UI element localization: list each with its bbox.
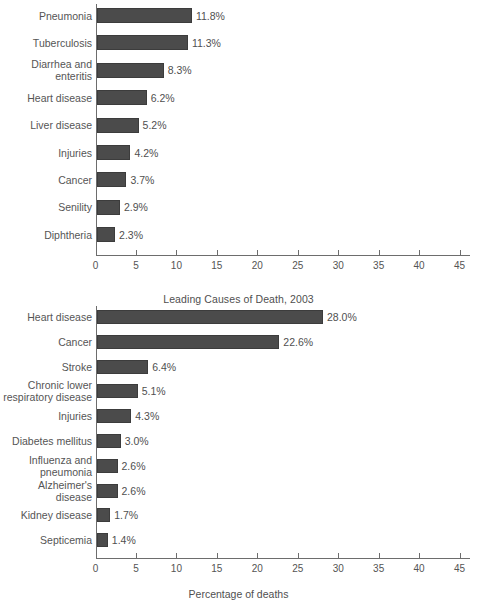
x-axis-tick: [379, 250, 380, 255]
bar: [97, 200, 120, 215]
x-axis-tick: [298, 553, 299, 558]
x-axis-tick: [176, 250, 177, 255]
x-axis-tick-label: 5: [123, 260, 149, 271]
x-axis-tick: [379, 553, 380, 558]
category-label: Diabetes mellitus: [12, 435, 92, 447]
bar: [97, 484, 118, 498]
x-axis-tick-label: 10: [163, 260, 189, 271]
category-label: Heart disease: [27, 92, 92, 104]
value-label: 4.3%: [135, 410, 159, 422]
bar: [97, 384, 138, 398]
category-label: Alzheimer's disease: [38, 479, 92, 503]
bar: [97, 459, 118, 473]
x-axis-tick-label: 0: [83, 563, 109, 574]
x-axis-tick-label: 20: [244, 260, 270, 271]
bar: [97, 90, 147, 105]
value-label: 3.0%: [125, 435, 149, 447]
bar: [97, 409, 132, 423]
x-axis-tick: [136, 553, 137, 558]
value-label: 11.8%: [196, 10, 225, 22]
x-axis-tick: [419, 553, 420, 558]
x-axis-tick: [338, 553, 339, 558]
bar: [97, 310, 324, 324]
x-axis-tick: [419, 250, 420, 255]
x-axis-tick-label: 15: [204, 563, 230, 574]
category-label: Cancer: [58, 174, 92, 186]
category-label: Diarrhea and enteritis: [31, 58, 92, 82]
value-label: 2.3%: [119, 229, 143, 241]
bar: [97, 434, 121, 448]
chart-top: 051015202530354045Pneumonia11.8%Tubercul…: [0, 0, 477, 285]
x-axis-tick-label: 45: [447, 260, 473, 271]
x-axis-tick-label: 25: [285, 260, 311, 271]
x-axis-line: [96, 558, 471, 559]
x-axis-tick-label: 40: [406, 260, 432, 271]
x-axis-tick: [460, 250, 461, 255]
x-axis-tick-label: 30: [325, 563, 351, 574]
x-axis-tick: [257, 250, 258, 255]
value-label: 22.6%: [283, 336, 313, 348]
x-axis-tick: [257, 553, 258, 558]
x-axis-tick-label: 10: [163, 563, 189, 574]
value-label: 2.6%: [122, 485, 146, 497]
value-label: 1.4%: [112, 534, 136, 546]
value-label: 11.3%: [192, 37, 221, 49]
value-label: 28.0%: [327, 311, 357, 323]
x-axis-tick-label: 5: [123, 563, 149, 574]
bar: [97, 145, 131, 160]
x-axis-tick: [96, 250, 97, 255]
category-label: Cancer: [58, 336, 92, 348]
value-label: 5.1%: [142, 385, 166, 397]
category-label: Liver disease: [30, 119, 92, 131]
x-axis-tick: [217, 553, 218, 558]
x-axis-tick: [298, 250, 299, 255]
category-label: Pneumonia: [39, 10, 92, 22]
x-axis-tick: [176, 553, 177, 558]
x-axis-tick: [338, 250, 339, 255]
bar: [97, 118, 139, 133]
chart-title-bottom: Leading Causes of Death, 2003: [0, 293, 477, 305]
value-label: 5.2%: [143, 119, 167, 131]
value-label: 6.4%: [152, 361, 176, 373]
category-label: Stroke: [62, 361, 92, 373]
value-label: 6.2%: [151, 92, 175, 104]
category-label: Senility: [58, 201, 92, 213]
x-axis-tick-label: 45: [447, 563, 473, 574]
bar: [97, 335, 280, 349]
value-label: 2.6%: [122, 460, 146, 472]
category-label: Injuries: [58, 147, 92, 159]
x-axis-tick-label: 25: [285, 563, 311, 574]
x-axis-line: [96, 255, 471, 256]
bar: [97, 227, 116, 242]
x-axis-tick-label: 30: [325, 260, 351, 271]
bar: [97, 508, 111, 522]
category-label: Influenza and pneumonia: [29, 454, 92, 478]
value-label: 4.2%: [134, 147, 158, 159]
bar: [97, 63, 164, 78]
x-axis-tick: [96, 553, 97, 558]
value-label: 3.7%: [130, 174, 154, 186]
value-label: 8.3%: [168, 64, 192, 76]
x-axis-tick-label: 35: [366, 563, 392, 574]
category-label: Tuberculosis: [33, 37, 92, 49]
x-axis-tick-label: 15: [204, 260, 230, 271]
bar: [97, 8, 192, 23]
x-axis-title: Percentage of deaths: [0, 588, 477, 600]
category-label: Injuries: [58, 410, 92, 422]
category-label: Septicemia: [40, 534, 92, 546]
x-axis-tick-label: 40: [406, 563, 432, 574]
category-label: Kidney disease: [21, 509, 92, 521]
bar: [97, 533, 108, 547]
x-axis-tick: [136, 250, 137, 255]
x-axis-tick: [460, 553, 461, 558]
category-label: Chronic lower respiratory disease: [3, 379, 92, 403]
value-label: 1.7%: [114, 509, 138, 521]
bar: [97, 172, 127, 187]
bar: [97, 360, 149, 374]
x-axis-tick-label: 20: [244, 563, 270, 574]
x-axis-tick-label: 0: [83, 260, 109, 271]
value-label: 2.9%: [124, 201, 148, 213]
bar: [97, 35, 188, 50]
x-axis-tick-label: 35: [366, 260, 392, 271]
category-label: Heart disease: [27, 311, 92, 323]
